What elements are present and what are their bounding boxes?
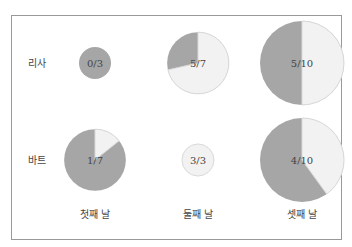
column-label: 첫째 날 [80,209,110,220]
pie-lisa-day3: 5/10 [260,21,344,105]
pie-lisa-day1: 0/3 [79,47,111,79]
pie-fraction-label: 3/3 [190,155,206,166]
pie-bart-day3: 4/10 [260,118,344,202]
pie-bart-day2: 3/3 [182,144,214,176]
column-label: 셋째 날 [287,209,317,220]
pie-fraction-label: 0/3 [87,58,103,69]
pie-grid-chart: 리사바트 첫째 날둘째 날셋째 날 0/35/75/101/73/34/10 [0,0,352,247]
pie-bart-day1: 1/7 [64,129,126,191]
row-label: 리사 [28,58,46,69]
row-label: 바트 [28,155,46,166]
pie-fraction-label: 5/7 [190,58,206,69]
pie-fraction-label: 5/10 [291,58,313,69]
pie-fraction-label: 4/10 [291,155,313,166]
column-label: 둘째 날 [183,209,213,220]
pie-lisa-day2: 5/7 [167,32,229,94]
pie-fraction-label: 1/7 [87,155,103,166]
